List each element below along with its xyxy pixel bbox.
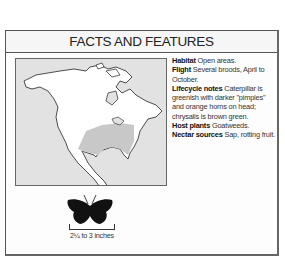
title-bar: FACTS AND FEATURES (6, 31, 277, 53)
fact-habitat: Habitat Open areas. (172, 56, 278, 65)
wingspan-label: 2¼ to 3 inches (62, 231, 122, 240)
facts-panel: FACTS AND FEATURES Habitat Open areas. F… (5, 30, 279, 256)
fact-lifecycle: Lifecycle notes Caterpillar is greenish … (172, 84, 278, 121)
wingspan-scale-bar (69, 224, 115, 230)
butterfly-silhouette-icon (66, 194, 114, 226)
fact-nectar: Nectar sources Sap, rotting fruit. (172, 130, 278, 139)
fact-flight: Flight Several broods, April to October. (172, 65, 278, 84)
north-america-map-icon (16, 59, 167, 186)
panel-title: FACTS AND FEATURES (69, 34, 213, 49)
range-map (15, 58, 167, 186)
fact-host-plants: Host plants Goatweeds. (172, 121, 278, 130)
facts-list: Habitat Open areas. Flight Several brood… (172, 56, 278, 140)
